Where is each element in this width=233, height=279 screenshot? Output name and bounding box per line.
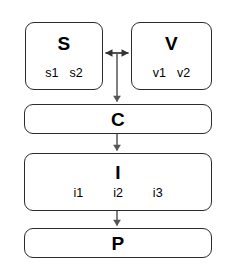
node-i[interactable]: I i1 i2 i3	[24, 153, 212, 211]
node-c[interactable]: C	[24, 104, 212, 134]
node-s-sublabels: s1 s2	[26, 67, 102, 80]
node-s-title: S	[26, 34, 102, 53]
node-s-sublabel-s1: s1	[45, 67, 58, 80]
node-v-sublabel-v1: v1	[153, 67, 166, 80]
node-i-sublabel-i1: i1	[73, 187, 83, 200]
node-v-title: V	[132, 34, 211, 53]
node-s-sublabel-s2: s2	[70, 67, 83, 80]
node-p[interactable]: P	[24, 228, 212, 258]
node-i-title: I	[25, 163, 211, 182]
node-p-title: P	[25, 234, 211, 253]
diagram-canvas: S s1 s2 V v1 v2 C I i1 i2 i3 P	[0, 0, 233, 279]
node-v-sublabel-v2: v2	[177, 67, 190, 80]
node-i-sublabel-i2: i2	[113, 187, 123, 200]
node-v-sublabels: v1 v2	[132, 67, 211, 80]
node-i-sublabel-i3: i3	[153, 187, 163, 200]
node-c-title: C	[25, 110, 211, 129]
node-i-sublabels: i1 i2 i3	[25, 187, 211, 200]
node-v[interactable]: V v1 v2	[131, 22, 212, 90]
node-s[interactable]: S s1 s2	[25, 22, 103, 90]
